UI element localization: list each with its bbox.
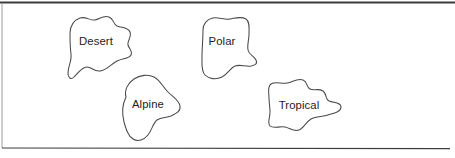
region-tropical-label: Tropical bbox=[279, 99, 320, 111]
region-alpine[interactable]: Alpine bbox=[123, 75, 180, 140]
region-polar-outline[interactable] bbox=[202, 17, 257, 78]
bottom-divider-line bbox=[2, 148, 450, 149]
region-polar-label: Polar bbox=[209, 35, 236, 47]
region-desert-label: Desert bbox=[79, 35, 114, 47]
region-alpine-label: Alpine bbox=[132, 98, 164, 110]
climate-region-map: Desert Polar Alpine Tropical bbox=[0, 0, 455, 158]
region-desert-outline[interactable] bbox=[68, 16, 132, 78]
region-polar[interactable]: Polar bbox=[202, 17, 257, 78]
region-desert[interactable]: Desert bbox=[68, 16, 132, 78]
region-tropical[interactable]: Tropical bbox=[269, 79, 342, 130]
map-figure-container: Desert Polar Alpine Tropical bbox=[0, 0, 455, 158]
